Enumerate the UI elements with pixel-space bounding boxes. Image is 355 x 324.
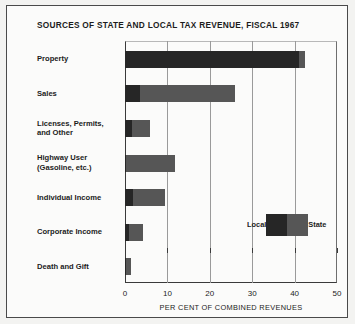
x-tick-label-10: 10 [163,289,172,298]
category-label-line: Sales [37,89,121,99]
legend-swatch-local [266,214,287,236]
category-label: Death and Gift [37,262,121,272]
bar-row [125,85,235,102]
bar-row [125,120,150,137]
x-tick-label-40: 40 [290,289,299,298]
gridline-30 [252,41,253,283]
category-label: Individual Income [37,193,121,203]
bar-segment-state [133,189,165,206]
x-tick-label-30: 30 [248,289,257,298]
chart-legend: Local State [247,214,326,236]
x-tick-30 [252,248,253,253]
bar-segment-state [299,51,305,68]
category-label: Property [37,54,121,64]
legend-label-state: State [308,214,326,236]
x-tick-label-50: 50 [333,289,342,298]
category-label: Licenses, Permits,and Other [37,119,121,138]
category-label-line: (Gasoline, etc.) [37,163,121,173]
category-label-line: Individual Income [37,193,121,203]
category-label-line: and Other [37,128,121,138]
gridline-40 [295,41,296,283]
x-tick-10 [167,248,168,253]
x-tick-50 [337,248,338,253]
bar-row [125,189,165,206]
plot-area: Local State [125,41,337,283]
bar-segment-state [126,155,175,172]
chart-frame: SOURCES OF STATE AND LOCAL TAX REVENUE, … [6,5,348,318]
category-label-line: Corporate Income [37,227,121,237]
bar-segment-state [132,120,150,137]
bar-row [125,155,175,172]
bar-segment-local [125,51,299,68]
bar-segment-local [125,85,140,102]
bar-segment-state [140,85,235,102]
bar-segment-local [125,189,133,206]
category-label-line: Death and Gift [37,262,121,272]
chart-figure: SOURCES OF STATE AND LOCAL TAX REVENUE, … [0,0,355,324]
x-axis-label: PER CENT OF COMBINED REVENUES [125,303,337,312]
x-tick-0 [125,248,126,253]
x-tick-40 [295,248,296,253]
legend-label-local: Local [247,214,266,236]
category-label-line: Property [37,54,121,64]
chart-title: SOURCES OF STATE AND LOCAL TAX REVENUE, … [37,20,299,30]
category-label: Corporate Income [37,227,121,237]
bar-segment-state [126,258,131,275]
legend-swatch-state [287,214,308,236]
x-tick-label-0: 0 [123,289,127,298]
category-label: Highway User(Gasoline, etc.) [37,153,121,172]
category-label-line: Licenses, Permits, [37,119,121,129]
bar-row [125,51,305,68]
category-label-line: Highway User [37,153,121,163]
bar-segment-local [125,120,132,137]
bar-segment-state [129,224,143,241]
bar-row [125,258,131,275]
x-tick-label-20: 20 [205,289,214,298]
category-label: Sales [37,89,121,99]
gridline-20 [210,41,211,283]
x-tick-20 [210,248,211,253]
bar-row [125,224,143,241]
